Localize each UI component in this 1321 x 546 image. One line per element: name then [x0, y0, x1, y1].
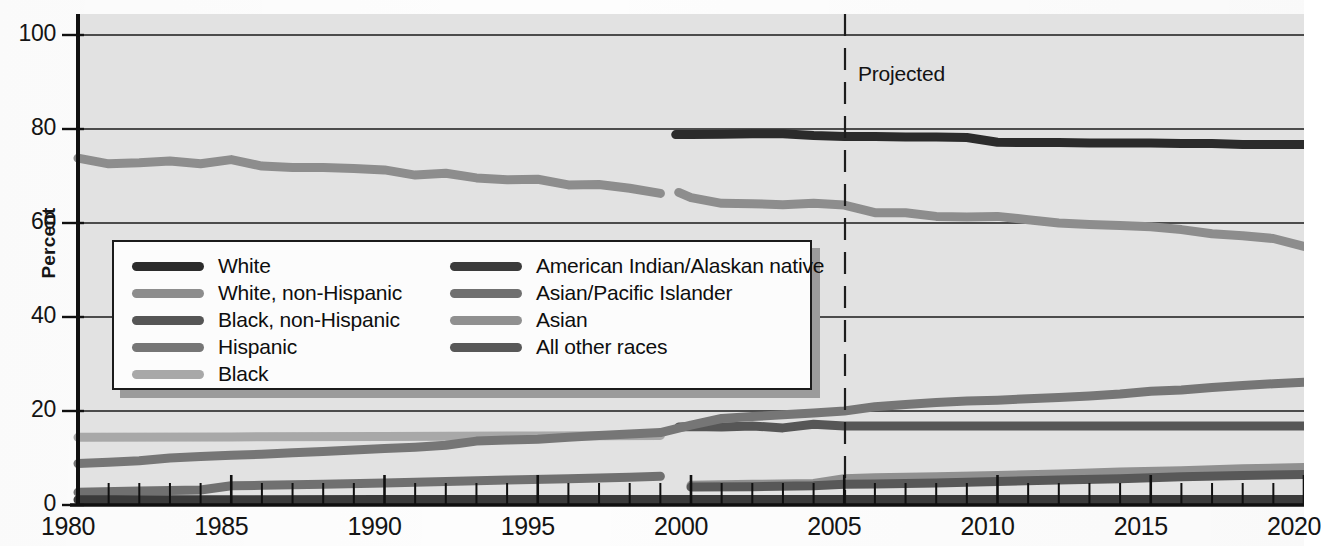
legend-swatch-icon [450, 262, 522, 271]
y-tick-label: 100 [0, 20, 56, 47]
y-tick-label: 20 [0, 396, 56, 423]
x-tick-label: 1980 [41, 512, 95, 541]
legend-item-label: Hispanic [218, 335, 297, 359]
legend-item-label: All other races [536, 335, 667, 359]
series-black-non-hispanic [679, 424, 1304, 428]
x-tick-label: 2020 [1267, 512, 1321, 541]
x-tick-label: 2000 [654, 512, 708, 541]
legend-item-label: White [218, 254, 271, 278]
legend-item-label: Asian [536, 308, 588, 332]
projected-annotation-label: Projected [858, 62, 945, 86]
x-tick-label: 1995 [501, 512, 555, 541]
x-tick-label: 2010 [961, 512, 1015, 541]
chart-legend: WhiteWhite, non-HispanicBlack, non-Hispa… [112, 240, 812, 390]
legend-item: Hispanic [132, 334, 450, 360]
legend-item: All other races [450, 334, 810, 360]
legend-item: White [132, 253, 450, 279]
y-tick-label: 60 [0, 208, 56, 235]
y-tick-label: 40 [0, 302, 56, 329]
legend-swatch-icon [132, 262, 204, 271]
x-tick-label: 1990 [348, 512, 402, 541]
y-axis-title: Percent [38, 188, 60, 298]
y-tick-label: 80 [0, 114, 56, 141]
legend-swatch-icon [132, 343, 204, 352]
legend-item: Asian [450, 307, 810, 333]
legend-swatch-icon [132, 289, 204, 298]
legend-swatch-icon [450, 289, 522, 298]
legend-item-label: Black, non-Hispanic [218, 308, 400, 332]
legend-swatch-icon [132, 316, 204, 325]
legend-item: Asian/Pacific Islander [450, 280, 810, 306]
legend-item-label: White, non-Hispanic [218, 281, 402, 305]
legend-column-left: WhiteWhite, non-HispanicBlack, non-Hispa… [114, 242, 450, 388]
legend-item-label: Black [218, 362, 268, 386]
legend-swatch-icon [450, 343, 522, 352]
x-tick-label: 2005 [807, 512, 861, 541]
legend-item: Black [132, 361, 450, 387]
legend-item-label: Asian/Pacific Islander [536, 281, 732, 305]
legend-column-right: American Indian/Alaskan nativeAsian/Paci… [450, 242, 810, 388]
x-tick-label: 1985 [194, 512, 248, 541]
legend-item: Black, non-Hispanic [132, 307, 450, 333]
x-tick-label: 2015 [1114, 512, 1168, 541]
legend-item-label: American Indian/Alaskan native [536, 254, 824, 278]
legend-swatch-icon [132, 370, 204, 379]
legend-swatch-icon [450, 316, 522, 325]
legend-item: White, non-Hispanic [132, 280, 450, 306]
legend-item: American Indian/Alaskan native [450, 253, 810, 279]
